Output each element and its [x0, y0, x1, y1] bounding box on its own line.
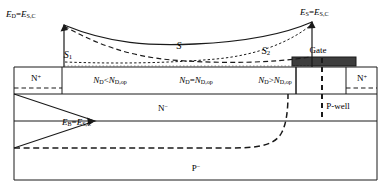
region-label-n-plus-right: N+ [357, 74, 367, 83]
n-plus-right-sup: + [363, 73, 367, 80]
p-well-text: P-well [326, 101, 350, 111]
curve-label-S1-sub: 1 [69, 53, 72, 60]
region-label-p-minus: P− [192, 164, 201, 173]
arrowhead-source-peak [308, 21, 316, 29]
doping-label-left: ND<ND,op [93, 76, 127, 85]
doping-right-n2-sub: D,op [280, 79, 292, 85]
region-label-n-minus: N− [158, 104, 168, 113]
n-plus-left-sup: + [37, 73, 41, 80]
gate-label: Gate [310, 46, 327, 55]
device-cross-section-figure: ED=ES,C ES=ES,C EB=ES,C S S1 S2 ND<ND,op… [0, 0, 391, 188]
n-minus-sup: − [164, 103, 168, 110]
p-minus-sup: − [197, 163, 201, 170]
source-field-rhs-sub: S,C [319, 11, 328, 17]
curve-label-S-text: S [177, 40, 182, 51]
gate-label-text: Gate [310, 45, 327, 55]
curve-label-S1: S1 [64, 50, 72, 61]
field-curve-S-solid [64, 22, 312, 45]
curve-label-S: S [177, 41, 182, 51]
drain-field-rhs-sub: S,C [27, 13, 36, 19]
gate-electrode [292, 57, 356, 66]
doping-left-n2-sub: D,op [115, 79, 127, 85]
region-label-n-plus-left: N+ [31, 74, 41, 83]
region-label-p-well: P-well [326, 102, 350, 111]
drain-field-label: ED=ES,C [6, 10, 36, 19]
doping-label-right: ND>ND,op [258, 76, 292, 85]
diagram-vector-layer [0, 0, 391, 188]
curve-label-S2-sub: 2 [267, 49, 270, 56]
curve-label-S2: S2 [262, 46, 270, 57]
doping-middle-n2-sub: D,op [201, 79, 213, 85]
body-field-rhs-sub: S,C [82, 121, 91, 127]
source-field-label: ES=ES,C [300, 8, 328, 17]
body-field-label: EB=ES,C [62, 118, 91, 127]
doping-label-middle: ND=ND,op [179, 76, 213, 85]
